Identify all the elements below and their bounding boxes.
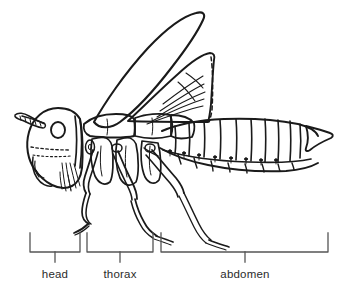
figure-canvas: head thorax abdomen xyxy=(0,0,342,293)
label-abdomen: abdomen xyxy=(220,268,269,280)
label-thorax: thorax xyxy=(103,268,136,280)
label-head: head xyxy=(42,268,68,280)
insect-anatomy-illustration xyxy=(0,0,342,293)
